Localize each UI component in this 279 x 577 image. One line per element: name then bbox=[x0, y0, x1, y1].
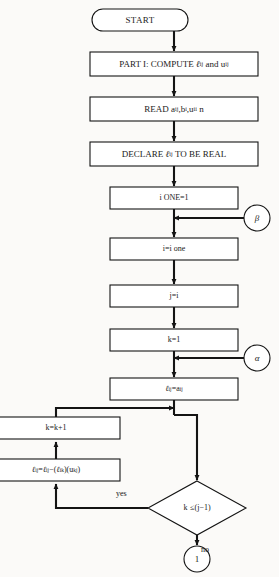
node-kk1-shape bbox=[0, 417, 120, 439]
node-part1-shape bbox=[90, 52, 258, 76]
node-iione-shape bbox=[110, 238, 238, 260]
edge-label-yes: yes bbox=[116, 489, 127, 498]
node-update-shape bbox=[0, 459, 120, 481]
node-decision-shape bbox=[148, 481, 246, 535]
node-start-shape bbox=[92, 9, 188, 31]
node-k1-shape bbox=[110, 329, 238, 351]
flowchart-canvas bbox=[0, 0, 279, 577]
edge-lij-decision-drop bbox=[174, 415, 197, 480]
edge-label-no: no bbox=[201, 545, 209, 554]
edge-decision-yes bbox=[56, 484, 148, 508]
node-alpha-shape bbox=[244, 345, 270, 371]
node-beta-shape bbox=[244, 205, 270, 231]
node-ji-shape bbox=[110, 285, 238, 307]
node-lij-shape bbox=[110, 378, 238, 400]
node-ione-shape bbox=[110, 187, 238, 209]
node-declare-shape bbox=[90, 142, 258, 166]
node-read-shape bbox=[90, 97, 258, 121]
edge-kk1-to-main bbox=[56, 408, 174, 417]
